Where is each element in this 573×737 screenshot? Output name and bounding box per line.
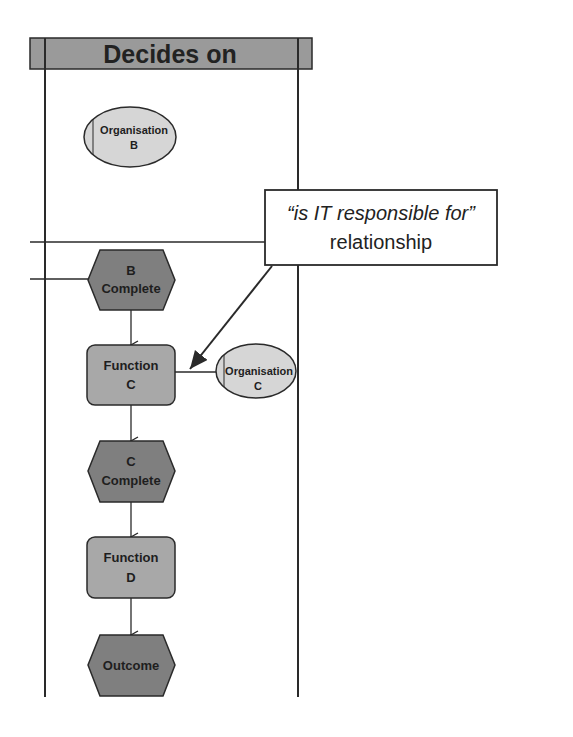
- function-d-label-2: D: [126, 570, 135, 585]
- callout-line-2: relationship: [330, 231, 432, 253]
- organisation-c-label-1: Organisation: [225, 365, 293, 377]
- function-c-node[interactable]: Function C: [87, 345, 175, 405]
- function-c-label-2: C: [126, 377, 136, 392]
- swimlane-header: Decides on: [30, 38, 312, 69]
- b-complete-label-2: Complete: [101, 281, 160, 296]
- organisation-b-label-2: B: [130, 139, 138, 151]
- callout-line-1: “is IT responsible for”: [287, 202, 476, 224]
- b-complete-label-1: B: [126, 263, 135, 278]
- c-complete-event[interactable]: C Complete: [88, 441, 175, 502]
- organisation-b-node[interactable]: Organisation B: [84, 107, 176, 167]
- c-complete-label-1: C: [126, 454, 136, 469]
- b-complete-event[interactable]: B Complete: [88, 250, 175, 310]
- callout-box: “is IT responsible for” relationship: [265, 190, 497, 265]
- organisation-b-label-1: Organisation: [100, 124, 168, 136]
- function-d-node[interactable]: Function D: [87, 537, 175, 598]
- epc-diagram: Decides on Organisation B “is IT respons…: [0, 0, 573, 737]
- swimlane-header-label: Decides on: [103, 40, 236, 68]
- function-c-label-1: Function: [104, 358, 159, 373]
- outcome-event[interactable]: Outcome: [88, 635, 175, 696]
- organisation-c-label-2: C: [254, 380, 262, 392]
- outcome-label: Outcome: [103, 658, 159, 673]
- function-d-label-1: Function: [104, 550, 159, 565]
- c-complete-label-2: Complete: [101, 473, 160, 488]
- organisation-c-node[interactable]: Organisation C: [216, 344, 296, 398]
